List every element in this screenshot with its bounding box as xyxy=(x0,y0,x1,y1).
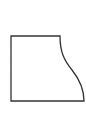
figure-canvas xyxy=(0,0,86,123)
curved-square-shape xyxy=(0,0,86,123)
shape-outline xyxy=(11,36,84,101)
